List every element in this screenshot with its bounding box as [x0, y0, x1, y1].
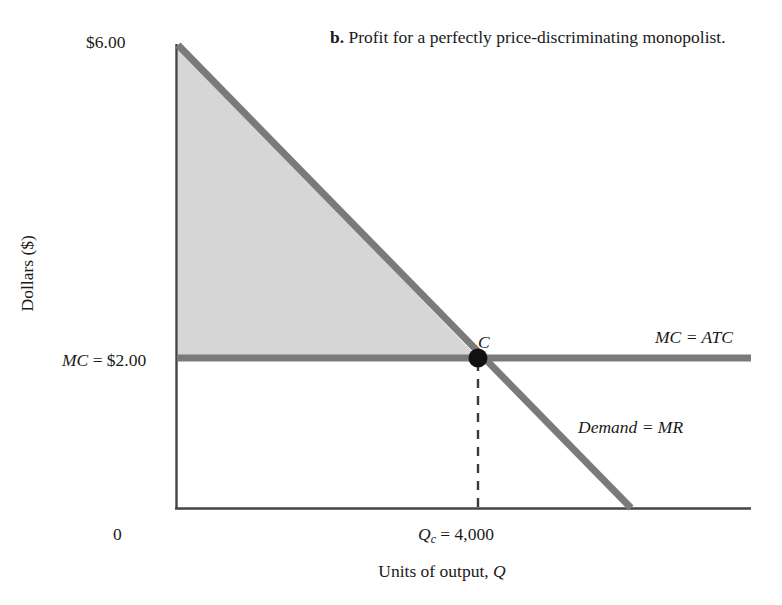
demand-mr-curve-label: Demand = MR [578, 417, 683, 438]
x-axis-title-variable: Q [493, 561, 506, 581]
y-axis-title: Dollars ($) [17, 213, 38, 333]
plot-canvas [0, 0, 782, 605]
mc-price-value: = $2.00 [88, 350, 146, 370]
panel-caption: b. Profit for a perfectly price-discrimi… [330, 27, 598, 48]
mc-price-label: MC = $2.00 [62, 350, 146, 371]
qc-variable: Q [418, 524, 431, 544]
point-c-label: C [478, 332, 490, 353]
x-axis-title-text: Units of output, [378, 561, 488, 581]
qc-axis-label: Qc = 4,000 [418, 524, 494, 546]
qc-value: = 4,000 [436, 524, 494, 544]
economics-figure: b. Profit for a perfectly price-discrimi… [0, 0, 782, 605]
panel-caption-text: Profit for a perfectly price-discriminat… [348, 27, 725, 47]
mc-price-variable: MC [62, 350, 88, 370]
y-axis-top-tick-label: $6.00 [86, 32, 125, 53]
origin-label: 0 [113, 524, 122, 545]
panel-letter: b. [330, 27, 344, 47]
mc-atc-curve-label: MC = ATC [655, 327, 733, 348]
x-axis-title: Units of output, Q [297, 561, 587, 582]
